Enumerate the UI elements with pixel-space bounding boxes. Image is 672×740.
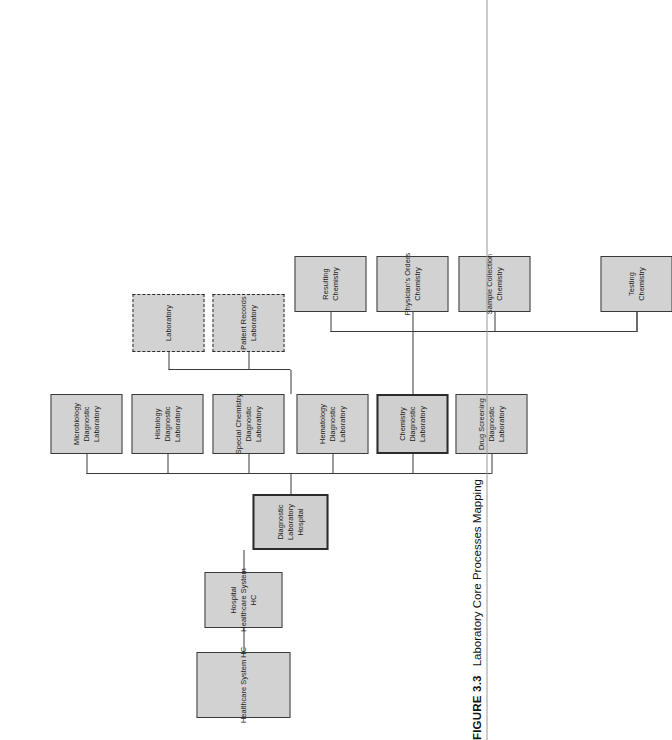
node-line: Laboratory: [91, 406, 101, 442]
connector-processes-to-sample-collection: [494, 312, 495, 332]
node-line: Testing: [626, 272, 636, 296]
node-drug-screening[interactable]: Drug Screening Diagnostic Laboratory: [455, 394, 527, 454]
node-line: Diagnostic: [162, 407, 172, 442]
node-line: Laboratory: [337, 406, 347, 442]
node-line: Chemistry: [636, 267, 646, 301]
connector-spine-to-special-chemistry: [248, 454, 249, 474]
connector-processes-to-resulting: [330, 312, 331, 332]
node-line: Chemistry: [397, 407, 407, 441]
node-hematology[interactable]: Hematology Diagnostic Laboratory: [296, 394, 368, 454]
connector-spine-to-histology: [167, 454, 168, 474]
node-line: Laboratory: [285, 504, 295, 540]
node-line: Diagnostic: [327, 407, 337, 442]
node-laboratory[interactable]: Laboratory: [132, 294, 204, 352]
node-line: Hematology: [317, 404, 327, 444]
node-line: Diagnostic: [486, 407, 496, 442]
node-line: Histology: [152, 409, 162, 440]
node-line: Laboratory: [248, 305, 258, 341]
connector-support-spine: [168, 369, 290, 370]
caption-rule: [486, 0, 487, 740]
node-line: Chemistry: [412, 267, 422, 301]
figure-caption: FIGURE 3.3Laboratory Core Processes Mapp…: [470, 0, 487, 740]
connector-special-chemistry-to-support: [290, 370, 291, 394]
connector-processes-to-testing-2: [636, 312, 637, 332]
connector-support-to-patient-records: [248, 352, 249, 370]
node-line: Laboratory: [163, 305, 173, 341]
node-chemistry[interactable]: Chemistry Diagnostic Laboratory: [376, 394, 448, 454]
node-line: Chemistry: [494, 267, 504, 301]
node-line: Diagnostic: [81, 407, 91, 442]
node-line: Patient Records: [238, 296, 248, 349]
figure-caption-text: Laboratory Core Processes Mapping: [470, 479, 482, 666]
node-microbiology[interactable]: Microbiology Diagnostic Laboratory: [50, 394, 122, 454]
node-resulting[interactable]: Resulting Chemistry: [294, 256, 366, 312]
node-special-chemistry[interactable]: Special Chemistry Diagnostic Laboratory: [212, 394, 284, 454]
node-line: Resulting: [320, 268, 330, 299]
node-line: Physician's Orders: [402, 253, 412, 315]
node-histology[interactable]: Histology Diagnostic Laboratory: [131, 394, 203, 454]
node-line: Healthcare System HC: [238, 647, 248, 723]
node-diagnostic-laboratory-hospital[interactable]: Diagnostic Laboratory Hospital: [252, 494, 328, 550]
connector-level3-stub: [290, 474, 291, 494]
connector-spine-to-microbiology: [86, 454, 87, 474]
node-line: Diagnostic: [275, 505, 285, 540]
node-line: Special Chemistry: [233, 394, 243, 454]
connector-departments-spine: [86, 473, 491, 474]
node-hospital-healthcare-system-hc[interactable]: Hospital Healthcare System HC: [204, 572, 282, 628]
node-line: Microbiology: [71, 403, 81, 445]
node-line: HC: [248, 595, 258, 606]
node-healthcare-system-hc[interactable]: Healthcare System HC: [196, 652, 290, 718]
figure-number: FIGURE 3.3: [470, 675, 482, 740]
node-sample-collection[interactable]: Sample Collection Chemistry: [458, 256, 530, 312]
node-physicians-orders[interactable]: Physician's Orders Chemistry: [376, 256, 448, 312]
connector-support-to-laboratory: [168, 352, 169, 370]
node-line: Laboratory: [172, 406, 182, 442]
node-line: Diagnostic: [407, 407, 417, 442]
node-line: Diagnostic: [243, 407, 253, 442]
node-line: Laboratory: [417, 406, 427, 442]
connector-spine-to-hematology: [332, 454, 333, 474]
node-line: Hospital: [295, 508, 305, 535]
node-line: Chemistry: [330, 267, 340, 301]
node-testing[interactable]: Testing Chemistry: [600, 256, 672, 312]
connector-spine-to-drug-screening: [491, 454, 492, 474]
node-line: Laboratory: [496, 406, 506, 442]
connector-chemistry-to-processes: [412, 332, 413, 394]
node-line: Hospital: [228, 586, 238, 613]
node-patient-records[interactable]: Patient Records Laboratory: [212, 294, 284, 352]
connector-spine-to-chemistry: [412, 454, 413, 474]
node-line: Healthcare System: [238, 568, 248, 631]
node-line: Laboratory: [253, 406, 263, 442]
